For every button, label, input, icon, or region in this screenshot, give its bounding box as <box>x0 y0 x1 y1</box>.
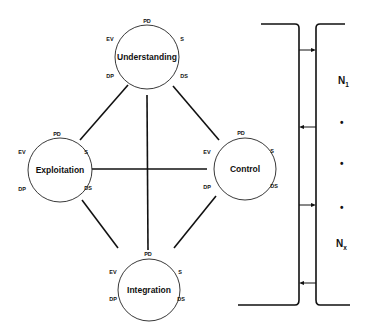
edge-control-integration <box>174 196 216 248</box>
node-label: Integration <box>127 285 171 295</box>
port-ds: DS <box>270 183 278 189</box>
node-label: Understanding <box>117 52 177 62</box>
port-s: S <box>84 149 88 155</box>
port-dp: DP <box>203 184 211 190</box>
bus-ellipsis-3: • <box>340 202 344 213</box>
bus-label-n1: N1 <box>338 75 349 88</box>
edge-understanding-control <box>173 86 219 140</box>
port-ds: DS <box>180 73 188 79</box>
bus-right-rail <box>316 24 350 305</box>
bus-arrow-1 <box>299 48 316 52</box>
edge-understanding-integration <box>147 95 148 250</box>
port-pd: PD <box>143 18 151 24</box>
bus-arrow-4 <box>299 281 316 285</box>
system-diagram: Understanding PD EV S DP DS Exploitation… <box>0 0 370 322</box>
port-s: S <box>270 148 274 154</box>
port-pd: PD <box>144 251 152 257</box>
bus-arrow-3 <box>299 203 316 207</box>
port-pd: PD <box>53 131 61 137</box>
port-dp: DP <box>106 73 114 79</box>
port-dp: DP <box>18 186 26 192</box>
node-understanding: Understanding PD EV S DP DS <box>106 18 188 89</box>
port-ev: EV <box>18 149 26 155</box>
port-ds: DS <box>84 185 92 191</box>
node-exploitation: Exploitation PD EV S DP DS <box>18 131 92 202</box>
bus-ellipsis-1: • <box>340 117 344 128</box>
port-ev: EV <box>106 36 114 42</box>
node-label: Exploitation <box>36 165 85 175</box>
bus-label-nx: Nx <box>336 238 347 251</box>
port-s: S <box>178 269 182 275</box>
port-ev: EV <box>109 269 117 275</box>
port-s: S <box>180 36 184 42</box>
edge-exploitation-integration <box>82 200 118 248</box>
edge-understanding-exploitation <box>80 85 128 140</box>
bus-ellipsis-2: • <box>340 158 344 169</box>
node-integration: Integration PD EV S DP DS <box>109 251 185 321</box>
port-ev: EV <box>203 149 211 155</box>
port-pd: PD <box>237 130 245 136</box>
node-label: Control <box>230 164 260 174</box>
port-ds: DS <box>177 296 185 302</box>
bus-arrow-2 <box>299 125 316 129</box>
node-control: Control PD EV S DP DS <box>203 130 278 200</box>
edges <box>80 85 219 250</box>
port-dp: DP <box>109 296 117 302</box>
